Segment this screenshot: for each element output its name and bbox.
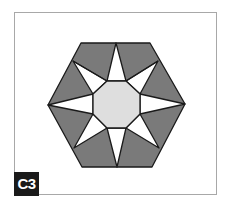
figure-label: C3 bbox=[14, 172, 39, 196]
center-octagon bbox=[93, 81, 140, 128]
